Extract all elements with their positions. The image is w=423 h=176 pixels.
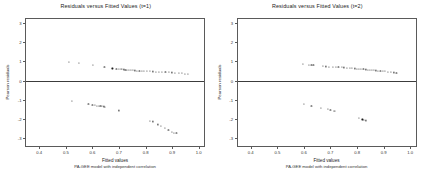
data-point xyxy=(363,69,364,70)
x-tick-label-t2-3: 0.7 xyxy=(328,150,334,155)
x-tick-t1-2 xyxy=(92,146,93,149)
y-axis-label-t2: Pearson residuals xyxy=(216,64,221,99)
data-point xyxy=(332,66,333,67)
zero-reference-line-t2 xyxy=(238,81,416,82)
data-point xyxy=(161,71,162,72)
data-point xyxy=(311,105,312,106)
data-point xyxy=(341,67,342,68)
data-point xyxy=(356,68,357,69)
y-tick-t1-4 xyxy=(23,61,26,62)
data-point xyxy=(146,70,147,71)
data-point xyxy=(359,68,360,69)
data-point xyxy=(384,71,385,72)
y-tick-label-t1-4: 1 xyxy=(19,59,21,64)
x-tick-label-t2-5: 0.9 xyxy=(381,150,387,155)
data-point xyxy=(149,120,150,121)
y-tick-t1-6 xyxy=(23,23,26,24)
residual-plot-figure: Residuals versus Fitted Values (t=1) 0.4… xyxy=(0,0,423,176)
data-point xyxy=(376,70,377,71)
panel-t1: Residuals versus Fitted Values (t=1) 0.4… xyxy=(0,0,212,176)
y-tick-t1-2 xyxy=(23,100,26,101)
y-tick-label-t2-0: -3 xyxy=(229,136,233,141)
data-point xyxy=(152,121,153,122)
data-point xyxy=(71,100,72,101)
x-tick-label-t1-2: 0.6 xyxy=(89,150,95,155)
data-point xyxy=(181,73,182,74)
data-point xyxy=(155,71,156,72)
data-point xyxy=(144,70,145,71)
data-point xyxy=(354,68,355,69)
panel-t2: Residuals versus Fitted Values (t=2) 0.4… xyxy=(212,0,423,176)
data-point xyxy=(136,70,137,71)
data-point xyxy=(390,72,391,73)
data-point xyxy=(387,71,388,72)
y-tick-t1-3 xyxy=(23,81,26,82)
y-axis-label-t1: Pearson residuals xyxy=(5,64,10,99)
panel-title-t1: Residuals versus Fitted Values (t=1) xyxy=(0,3,212,9)
data-point xyxy=(371,69,372,70)
x-tick-t2-3 xyxy=(330,146,331,149)
data-point xyxy=(365,69,366,70)
data-point xyxy=(165,72,166,73)
x-tick-t1-1 xyxy=(66,146,67,149)
x-tick-label-t2-2: 0.6 xyxy=(301,150,307,155)
y-tick-label-t1-5: 2 xyxy=(19,40,21,45)
data-point xyxy=(149,71,150,72)
data-point xyxy=(303,103,304,104)
x-axis-label-t1: Fitted values xyxy=(25,158,205,163)
data-point xyxy=(160,125,161,126)
y-tick-label-t2-1: -2 xyxy=(229,117,233,122)
y-tick-t2-0 xyxy=(235,138,238,139)
y-tick-label-t2-5: 2 xyxy=(231,40,233,45)
y-tick-t2-5 xyxy=(235,42,238,43)
data-point xyxy=(176,133,177,134)
data-point xyxy=(382,70,383,71)
data-point xyxy=(346,67,347,68)
data-point xyxy=(69,62,70,63)
data-point xyxy=(373,70,374,71)
plot-frame-t1: 0.40.50.60.70.80.91.0-3-2-10123 xyxy=(25,18,205,147)
x-tick-t2-4 xyxy=(357,146,358,149)
data-point xyxy=(112,68,113,69)
x-tick-label-t1-1: 0.5 xyxy=(63,150,69,155)
data-point xyxy=(171,131,172,132)
data-point xyxy=(330,109,331,110)
y-tick-label-t1-3: 0 xyxy=(19,78,21,83)
data-point xyxy=(380,70,381,71)
x-tick-label-t2-1: 0.5 xyxy=(274,150,280,155)
data-point xyxy=(164,127,165,128)
x-tick-t1-6 xyxy=(199,146,200,149)
y-tick-t1-1 xyxy=(23,119,26,120)
y-tick-label-t2-3: 0 xyxy=(231,78,233,83)
y-tick-label-t1-0: -3 xyxy=(18,136,22,141)
x-tick-t2-6 xyxy=(410,146,411,149)
data-point xyxy=(335,66,336,67)
x-tick-label-t1-4: 0.8 xyxy=(143,150,149,155)
data-point xyxy=(311,64,312,65)
data-point xyxy=(313,65,314,66)
data-point xyxy=(352,68,353,69)
data-point xyxy=(139,70,140,71)
plot-area-t2 xyxy=(238,19,416,146)
data-point xyxy=(132,70,133,71)
data-point xyxy=(168,130,169,131)
x-tick-label-t1-6: 1.0 xyxy=(196,150,202,155)
data-point xyxy=(174,132,175,133)
y-tick-t2-2 xyxy=(235,100,238,101)
plot-frame-t2: 0.40.50.60.70.80.91.0-3-2-10123 xyxy=(237,18,417,147)
x-tick-t1-4 xyxy=(146,146,147,149)
data-point xyxy=(104,67,105,68)
y-tick-t2-1 xyxy=(235,119,238,120)
data-point xyxy=(325,66,326,67)
data-point xyxy=(152,71,153,72)
x-tick-label-t1-0: 0.4 xyxy=(36,150,42,155)
x-tick-label-t2-6: 1.0 xyxy=(407,150,413,155)
x-tick-t1-5 xyxy=(172,146,173,149)
y-tick-t2-4 xyxy=(235,61,238,62)
plot-area-t1 xyxy=(26,19,204,146)
data-point xyxy=(94,104,95,105)
x-tick-t2-2 xyxy=(304,146,305,149)
y-tick-t2-6 xyxy=(235,23,238,24)
data-point xyxy=(393,72,394,73)
data-point xyxy=(184,73,185,74)
